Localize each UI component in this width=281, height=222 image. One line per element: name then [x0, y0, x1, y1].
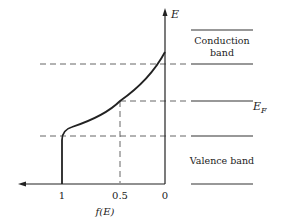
fermi-dirac-curve: [62, 52, 165, 184]
conduction-band-label-1: Conduction: [194, 35, 249, 46]
tick-label-0: 0: [162, 190, 168, 201]
axes: [18, 8, 168, 187]
conduction-band-label-2: band: [210, 47, 234, 58]
tick-label-1: 1: [59, 190, 65, 201]
fermi-level-label: E: [252, 100, 261, 113]
tick-label-0.5: 0.5: [112, 190, 128, 201]
fE-axis-arrow-icon: [18, 182, 26, 187]
fermi-level-subscript: F: [260, 106, 267, 115]
valence-band-label: Valence band: [189, 155, 254, 166]
fE-axis-label: f(E): [95, 206, 115, 217]
energy-axis-label: E: [170, 8, 179, 21]
energy-axis-arrow-icon: [163, 8, 168, 16]
fermi-dirac-diagram: E Conduction band E F Valence band 1 0.5…: [0, 0, 281, 222]
